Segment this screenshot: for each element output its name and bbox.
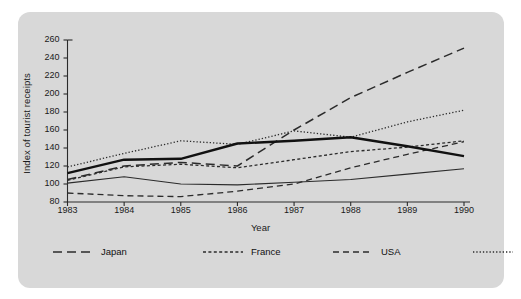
x-tick-label: 1990	[444, 205, 484, 215]
legend-swatch-japan	[52, 247, 94, 257]
legend-item-japan[interactable]: Japan	[52, 246, 202, 257]
y-tick-label: 120	[32, 160, 60, 170]
y-tick-label: 100	[32, 178, 60, 188]
x-tick-label: 1984	[104, 205, 144, 215]
legend-swatch-uk	[472, 247, 514, 257]
y-tick-label: 220	[32, 70, 60, 80]
legend-item-usa[interactable]: USA	[332, 246, 472, 257]
x-axis-label: Year	[0, 222, 521, 233]
y-tick-label: 180	[32, 106, 60, 116]
series-line-usa	[68, 142, 465, 197]
series-line-germany	[68, 169, 465, 185]
x-tick-label: 1983	[48, 205, 88, 215]
legend-swatch-usa	[332, 247, 374, 257]
y-tick-label: 240	[32, 52, 60, 62]
legend-label: France	[251, 246, 281, 257]
y-tick-label: 200	[32, 88, 60, 98]
legend-item-uk[interactable]: UK	[472, 246, 521, 257]
x-tick-label: 1985	[161, 205, 201, 215]
chart-legend: JapanFranceUSAUKGermanySpain	[52, 243, 472, 260]
x-tick-label: 1989	[387, 205, 427, 215]
y-tick-label: 140	[32, 142, 60, 152]
y-axis-label: Index of tourist receipts	[21, 54, 32, 194]
legend-item-france[interactable]: France	[202, 246, 332, 257]
y-tick-label: 160	[32, 124, 60, 134]
series-group	[68, 48, 465, 197]
chart-page: Index of tourist receipts Year 801001201…	[0, 0, 521, 299]
legend-swatch-france	[202, 247, 244, 257]
legend-label: USA	[381, 246, 401, 257]
series-line-uk	[68, 110, 465, 167]
y-tick-label: 260	[32, 34, 60, 44]
legend-label: Japan	[101, 246, 127, 257]
y-axis-ticks	[64, 40, 68, 202]
x-tick-label: 1986	[217, 205, 257, 215]
x-tick-label: 1987	[274, 205, 314, 215]
x-tick-label: 1988	[331, 205, 371, 215]
